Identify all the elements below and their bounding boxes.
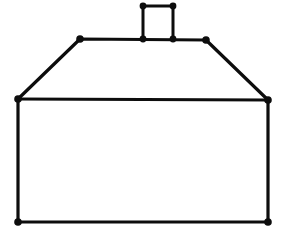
- vertex-dot-chimney-base-right: [170, 36, 177, 43]
- vertex-dot-base-left: [14, 218, 22, 226]
- roof-path: [18, 39, 268, 100]
- house-drawing-figure: [0, 0, 283, 233]
- vertex-dot-ridge-left: [76, 35, 84, 43]
- vertex-dot-eave-left: [14, 95, 22, 103]
- vertex-dot-base-right: [264, 218, 272, 226]
- vertex-dot-eave-right: [264, 96, 272, 104]
- chimney-path: [143, 6, 173, 39]
- eave-line-path: [18, 99, 268, 100]
- house-outline-svg: [0, 0, 283, 233]
- house-body-path: [18, 99, 268, 222]
- vertex-dot-ridge-right: [202, 36, 210, 44]
- vertex-dot-chimney-top-left: [140, 3, 147, 10]
- vertex-dot-chimney-top-right: [170, 3, 177, 10]
- vertex-dot-chimney-base-left: [140, 36, 147, 43]
